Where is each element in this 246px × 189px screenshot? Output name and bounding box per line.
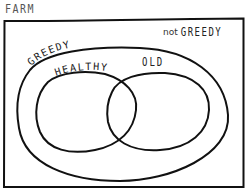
not-greedy-label: notGREEDY — [163, 28, 222, 37]
not-greedy-set-name: GREEDY — [181, 27, 223, 39]
greedy-set-label: GREEDY — [25, 38, 72, 67]
venn-diagram: GREEDY HEALTHY FARM notGREEDY OLD — [0, 0, 246, 189]
healthy-set-label: HEALTHY — [53, 61, 109, 78]
farm-label: FARM — [5, 4, 35, 16]
old-set-label: OLD — [142, 57, 164, 69]
not-prefix: not — [163, 27, 178, 37]
